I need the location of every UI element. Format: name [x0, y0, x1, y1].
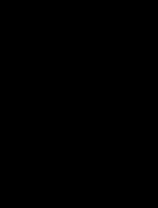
diagram-figure: [0, 0, 158, 208]
diagram-canvas: [0, 0, 158, 208]
figure-background: [0, 0, 158, 208]
